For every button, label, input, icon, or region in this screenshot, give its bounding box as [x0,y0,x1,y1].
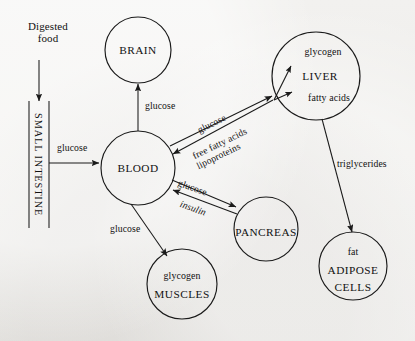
node-label-brain: BRAIN [119,44,156,56]
node-label-adipose-line2: CELLS [335,281,372,293]
node-liver-fatty-acids-label: fatty acids [308,93,350,104]
diagram-canvas: Digested food SMALL INTESTINE glucose gl… [0,0,415,341]
node-label-liver: LIVER [302,70,338,82]
edge-label-intestine-to-blood: glucose [57,143,87,153]
digested-food-line1: Digested [28,20,68,32]
node-adipose-fat-label: fat [348,247,359,258]
edge-label-blood-to-muscles: glucose [110,224,140,234]
small-intestine-label: SMALL INTESTINE [33,113,44,216]
node-label-pancreas: PANCREAS [235,226,297,238]
node-label-muscles: MUSCLES [154,288,209,300]
edge-label-liver-to-adipose: triglycerides [337,159,387,169]
node-muscles-circle[interactable] [147,249,217,319]
edge-label-blood-to-brain: glucose [145,101,175,111]
digested-food-label: Digested food [28,20,68,45]
node-label-blood: BLOOD [117,162,158,174]
digested-food-line2: food [28,32,68,44]
diagram-page: Digested food SMALL INTESTINE glucose gl… [0,0,415,341]
node-muscles-glycogen-label: glycogen [164,271,201,282]
node-label-adipose-line1: ADIPOSE [328,264,379,276]
node-liver-glycogen-label: glycogen [305,47,342,58]
edge-liver-to-adipose [322,119,352,232]
